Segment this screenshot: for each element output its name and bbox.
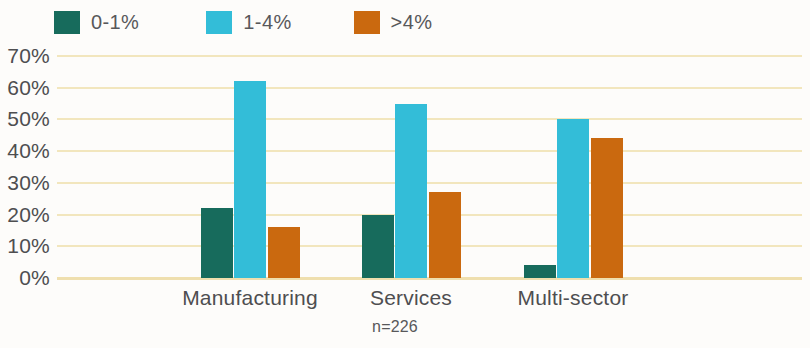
y-tick-label-50: 50% — [0, 107, 50, 131]
bar-services-01[interactable] — [362, 215, 394, 278]
gridline-40 — [57, 150, 802, 152]
bar-services-4[interactable] — [429, 192, 461, 278]
chart-caption: n=226 — [0, 318, 810, 336]
gridline-30 — [57, 182, 802, 184]
legend-label-1-4-percent: 1-4% — [243, 11, 291, 34]
sample-size-label: n=226 — [372, 318, 418, 335]
y-tick-label-60: 60% — [0, 76, 50, 100]
legend-swatch-1-4-percent — [206, 11, 232, 34]
bar-multi-sector-01[interactable] — [524, 265, 556, 278]
bar-manufacturing-14[interactable] — [234, 81, 266, 278]
y-tick-label-10: 10% — [0, 234, 50, 258]
bar-services-14[interactable] — [395, 104, 427, 278]
gridline-50 — [57, 118, 802, 120]
legend-item-2[interactable]: >4% — [354, 11, 433, 34]
y-tick-label-40: 40% — [0, 139, 50, 163]
y-tick-label-30: 30% — [0, 171, 50, 195]
x-axis-label-multi-sector: Multi-sector — [463, 286, 683, 310]
chart-legend: 0-1% 1-4% >4% — [54, 9, 432, 35]
legend-swatch-over-4-percent — [354, 11, 380, 34]
y-tick-label-70: 70% — [0, 44, 50, 68]
bar-multi-sector-4[interactable] — [591, 138, 623, 278]
legend-item-1[interactable]: 1-4% — [206, 11, 291, 34]
legend-label-0-1-percent: 0-1% — [91, 11, 139, 34]
legend-label-over-4-percent: >4% — [391, 11, 433, 34]
plot-area — [57, 56, 802, 278]
gridline-60 — [57, 87, 802, 89]
bar-multi-sector-14[interactable] — [557, 119, 589, 278]
bar-manufacturing-01[interactable] — [201, 208, 233, 278]
gridline-70 — [57, 55, 802, 57]
legend-swatch-0-1-percent — [54, 11, 80, 34]
x-axis-labels: ManufacturingServicesMulti-sector — [0, 286, 810, 316]
bar-manufacturing-4[interactable] — [268, 227, 300, 278]
bar-chart: 0-1% 1-4% >4% 70%60%50%40%30%20%10%0% Ma… — [0, 0, 810, 348]
legend-item-0[interactable]: 0-1% — [54, 11, 139, 34]
y-tick-label-20: 20% — [0, 203, 50, 227]
